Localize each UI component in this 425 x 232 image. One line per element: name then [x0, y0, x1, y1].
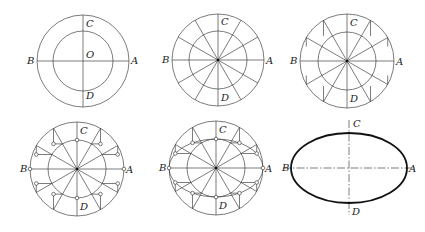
intersection-point	[214, 137, 218, 141]
intersection-point	[167, 166, 171, 170]
label-b: B	[161, 54, 169, 65]
panel-step-3: CDBA	[289, 14, 403, 108]
intersection-point	[255, 152, 259, 156]
intersection-point	[191, 191, 195, 195]
intersection-point	[99, 192, 103, 196]
intersection-point	[238, 191, 242, 195]
label-o: O	[86, 49, 94, 60]
label-a: A	[125, 164, 133, 175]
intersection-point	[116, 153, 120, 157]
intersection-point	[214, 195, 218, 199]
intersection-point	[28, 167, 32, 171]
intersection-point	[261, 166, 265, 170]
label-c: C	[80, 125, 88, 136]
label-b: B	[289, 55, 297, 66]
intersection-point	[238, 141, 242, 145]
label-a: A	[408, 163, 416, 174]
label-d: D	[85, 90, 94, 101]
label-b: B	[26, 55, 34, 66]
intersection-point	[122, 167, 126, 171]
intersection-point	[52, 142, 56, 146]
label-c: C	[221, 16, 229, 27]
intersection-point	[52, 192, 56, 196]
center-dot	[346, 60, 349, 63]
label-d: D	[220, 92, 229, 103]
label-b: B	[158, 162, 166, 173]
label-a: A	[265, 55, 273, 66]
label-d: D	[79, 201, 88, 212]
intersection-point	[34, 153, 38, 157]
intersection-point	[173, 181, 177, 185]
label-c: C	[219, 124, 227, 135]
intersection-point	[34, 182, 38, 186]
intersection-point	[99, 142, 103, 146]
label-b: B	[19, 163, 27, 174]
label-d: D	[349, 93, 358, 104]
label-d: D	[351, 206, 360, 217]
intersection-point	[255, 181, 259, 185]
panel-step-6: CDBA	[281, 118, 416, 217]
panel-step-2: CDBA	[161, 14, 273, 106]
label-c: C	[86, 18, 94, 29]
intersection-point	[173, 152, 177, 156]
panel-step-5: CDBA	[158, 121, 272, 215]
center-dot	[76, 168, 79, 171]
center-dot	[215, 167, 218, 170]
intersection-point	[116, 182, 120, 186]
ellipse-construction-diagram: CODBA CDBA CDBA CDBA CDBA CDBA	[0, 0, 425, 232]
intersection-point	[75, 138, 79, 142]
center-dot	[217, 59, 220, 62]
panel-step-4: CDBA	[19, 122, 133, 216]
panel-step-1: CODBA	[26, 15, 138, 107]
intersection-point	[75, 196, 79, 200]
label-b: B	[281, 162, 289, 173]
label-a: A	[395, 56, 403, 67]
label-a: A	[130, 55, 138, 66]
intersection-point	[191, 141, 195, 145]
label-d: D	[218, 200, 227, 211]
label-c: C	[350, 17, 358, 28]
label-a: A	[264, 163, 272, 174]
label-c: C	[353, 118, 361, 129]
